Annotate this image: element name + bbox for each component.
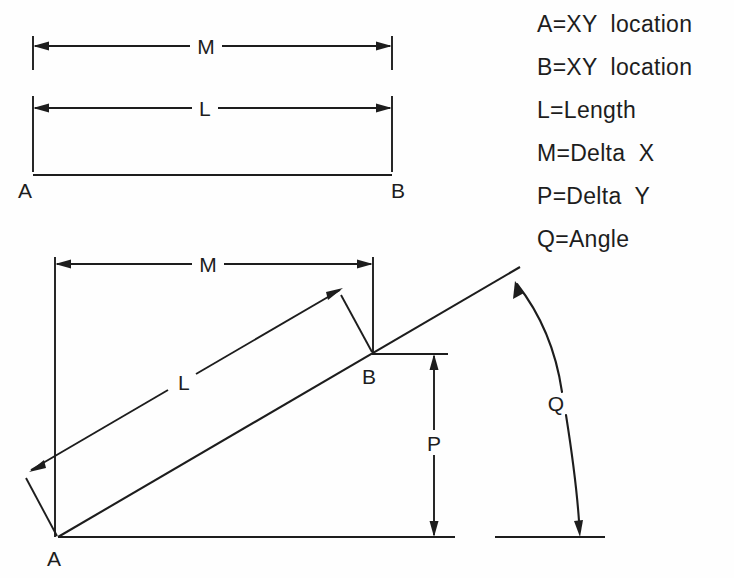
legend-group: A=XY location B=XY location L=Length M=D… <box>537 11 692 252</box>
bottom-view-point-b-label: B <box>362 365 376 388</box>
top-view-group: M L A B <box>18 35 405 202</box>
bottom-view-q-arrowhead-bottom <box>574 520 583 537</box>
top-view-l-label: L <box>199 97 211 120</box>
top-view-point-a-label: A <box>18 179 32 202</box>
bottom-view-p-arrowhead-top <box>430 354 439 370</box>
bottom-view-q-label: Q <box>548 392 565 415</box>
legend-item-l: L=Length <box>537 97 636 123</box>
bottom-view-l-dimension-line-upper <box>196 290 340 374</box>
legend-item-m: M=Delta X <box>537 140 654 166</box>
legend-item-a: A=XY location <box>537 11 692 37</box>
bottom-view-l-arrowhead-lower <box>29 460 46 472</box>
bottom-view-m-label: M <box>199 253 217 276</box>
bottom-view-m-arrowhead-left <box>55 260 71 269</box>
bottom-view-l-extension-at-b <box>341 295 372 352</box>
bottom-view-l-dimension-line-lower <box>31 390 168 470</box>
bottom-view-q-arc-lower <box>566 415 579 521</box>
bottom-view-p-arrowhead-bottom <box>430 521 439 537</box>
bottom-view-m-arrowhead-right <box>357 260 373 269</box>
top-view-m-arrowhead-left <box>33 42 49 51</box>
top-view-l-arrowhead-right <box>376 104 392 113</box>
bottom-view-l-extension-at-a <box>26 478 57 536</box>
bottom-view-q-arc-upper <box>517 284 562 392</box>
legend-item-q: Q=Angle <box>537 226 629 252</box>
bottom-view-group: M L P Q A B <box>26 253 605 570</box>
bottom-view-point-a-label: A <box>47 547 61 570</box>
bottom-view-p-label: P <box>427 432 441 455</box>
legend-item-p: P=Delta Y <box>537 183 650 209</box>
dimension-diagram: M L A B <box>0 0 734 578</box>
bottom-view-slope-ray <box>58 267 520 537</box>
top-view-m-arrowhead-right <box>376 42 392 51</box>
bottom-view-l-arrowhead-upper <box>326 288 343 300</box>
top-view-l-arrowhead-left <box>33 104 49 113</box>
top-view-m-label: M <box>197 35 215 58</box>
top-view-point-b-label: B <box>391 179 405 202</box>
bottom-view-l-label: L <box>178 371 190 394</box>
diagram-canvas: M L A B <box>0 0 734 578</box>
legend-item-b: B=XY location <box>537 54 692 80</box>
